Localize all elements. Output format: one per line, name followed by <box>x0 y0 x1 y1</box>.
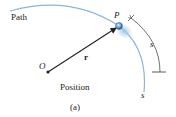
arc-length-label: s <box>150 40 154 49</box>
path-curve <box>10 5 144 92</box>
particle-label: P <box>114 11 120 20</box>
position-vector-label: r <box>84 53 88 62</box>
figure-caption: (a) <box>70 103 80 112</box>
position-vector-arrow <box>48 28 116 72</box>
particle-p <box>116 23 123 30</box>
origin-point <box>46 70 49 73</box>
origin-label: O <box>39 62 46 71</box>
figure-title: Position <box>60 83 90 92</box>
path-label: Path <box>11 13 27 22</box>
path-coordinate-label: s <box>141 91 145 100</box>
